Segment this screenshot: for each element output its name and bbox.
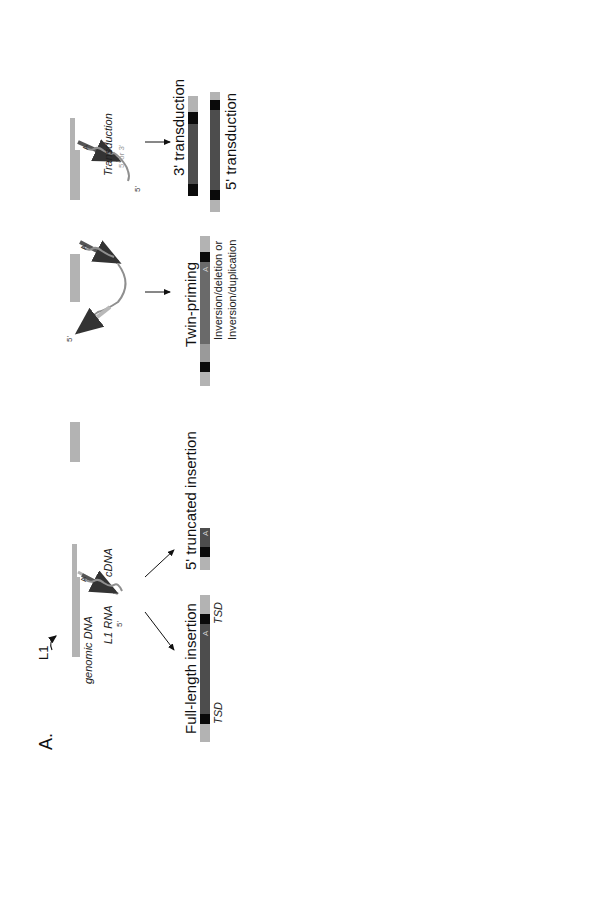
- twin-priming-result-bar: A: [200, 236, 210, 386]
- full-length-insertion-title: Full-length insertion: [182, 603, 199, 734]
- l1-curved-arrow: [51, 636, 56, 650]
- svg-text:A: A: [79, 244, 88, 250]
- three-prime-transduction-title: 3' transduction: [170, 79, 187, 176]
- arrow-to-full-length: [145, 612, 174, 650]
- svg-text:A: A: [201, 266, 210, 272]
- tprt-diagram: L1 genomic DNA A L1 RNA cDNA 5' A Full-l…: [36, 431, 224, 742]
- full-length-insertion-bar: A: [200, 595, 210, 742]
- twin-priming-subtitle-1: Inversion/deletion or: [212, 241, 224, 340]
- genomic-dna-bar-left: [72, 577, 80, 657]
- five-prime-label: 5': [115, 621, 124, 627]
- cdna-label: cDNA: [102, 548, 114, 577]
- panel-a-label: A.: [36, 733, 56, 750]
- five-prime-transduction-title: 5' transduction: [222, 93, 239, 190]
- tsd-right-label: TSD: [212, 602, 224, 624]
- figure-canvas: A. L1 genomic DNA A L1 RNA cDNA 5' A: [0, 0, 604, 912]
- svg-text:A: A: [81, 144, 90, 150]
- genomic-dna-label: genomic DNA: [82, 616, 94, 684]
- twin-priming-diagram: A 5' A Twin-priming Inversion/deletion o…: [65, 236, 238, 462]
- svg-text:5': 5': [133, 186, 142, 192]
- five-prime-transduction-bar: [210, 92, 220, 212]
- genomic-dna-bar-right: [72, 544, 77, 577]
- poly-a-label: A: [79, 576, 88, 582]
- svg-text:A: A: [201, 630, 210, 636]
- l1-rna-label: L1 RNA: [102, 605, 114, 644]
- arrow-to-truncated: [145, 550, 174, 577]
- transduction-label: Transduction: [102, 113, 114, 176]
- l1-label: L1: [36, 646, 51, 660]
- truncated-insertion-bar: A: [200, 528, 210, 570]
- twin-priming-subtitle-2: Inversion/duplication: [226, 240, 238, 340]
- twin-priming-title: Twin-priming: [182, 262, 199, 347]
- transduction-sublabel: 5' or 3': [117, 144, 126, 168]
- truncated-insertion-title: 5' truncated insertion: [182, 431, 199, 570]
- svg-text:A: A: [201, 530, 210, 536]
- three-prime-transduction-bar: [188, 96, 198, 196]
- svg-text:5': 5': [65, 336, 74, 342]
- tsd-left-label: TSD: [212, 702, 224, 724]
- transduction-diagram: A Transduction 5' or 3' 5' 3' transducti…: [70, 79, 239, 212]
